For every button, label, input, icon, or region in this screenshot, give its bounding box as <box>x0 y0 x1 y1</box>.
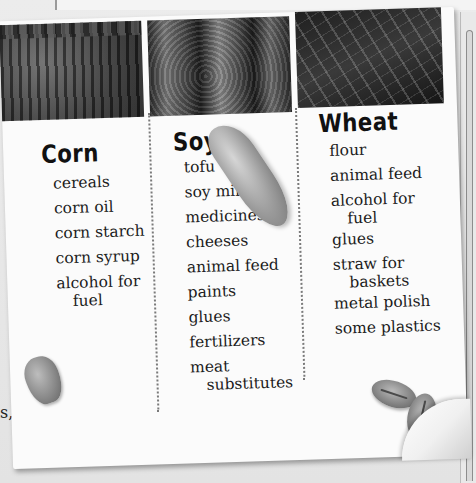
wheat-products-list: flour animal feed alcohol forfuel glues … <box>329 136 441 342</box>
list-item: fertilizers <box>189 327 292 355</box>
corn-heading: Corn <box>41 138 99 169</box>
list-item: alcohol forfuel <box>56 269 147 311</box>
corn-kernel-image <box>19 352 67 409</box>
list-item: some plastics <box>335 314 442 342</box>
list-item: animal feed <box>330 161 437 189</box>
column-divider <box>295 108 306 380</box>
list-item: meatsubstitutes <box>190 352 294 394</box>
list-item: flour <box>329 136 436 164</box>
list-item: corn starch <box>54 219 145 247</box>
list-item: corn oil <box>54 194 145 222</box>
list-item: glues <box>332 225 439 253</box>
corn-products-list: cereals corn oil corn starch corn syrup … <box>53 169 147 311</box>
list-item: animal feed <box>187 252 290 280</box>
soybean-field-photo <box>147 16 292 116</box>
column-divider <box>148 113 159 413</box>
list-item: straw forbaskets <box>333 250 440 292</box>
list-item: paints <box>187 277 290 305</box>
list-item: glues <box>188 302 291 330</box>
list-item: cereals <box>53 169 144 197</box>
list-item: alcohol forfuel <box>331 186 438 228</box>
wheat-heading: Wheat <box>318 107 398 138</box>
corn-field-photo <box>0 21 144 121</box>
wheat-field-photo <box>295 7 444 108</box>
list-item: metal polish <box>334 289 441 317</box>
crop-products-card: Corn cereals corn oil corn starch corn s… <box>0 7 468 469</box>
list-item: corn syrup <box>55 244 146 272</box>
list-item: cheeses <box>186 227 289 255</box>
